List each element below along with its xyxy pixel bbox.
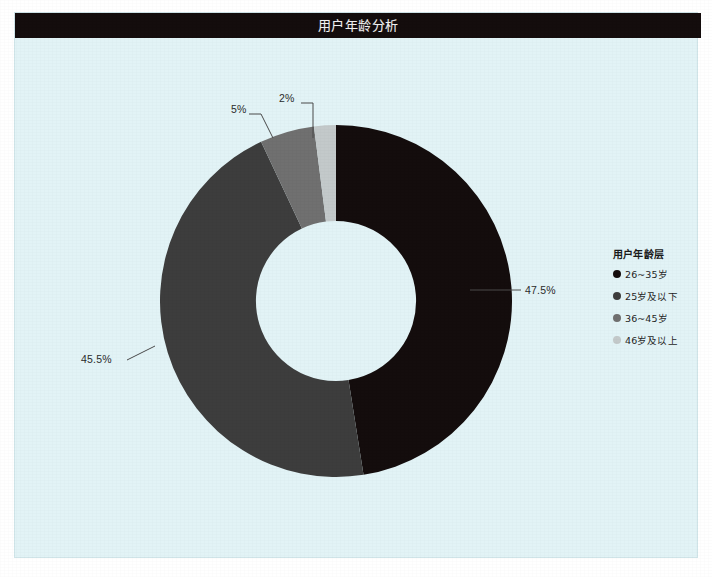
legend: 用户年龄层 26~35岁 25岁及以下 36~45岁 46岁及以上 (613, 246, 709, 356)
legend-swatch-icon (613, 336, 621, 344)
legend-swatch-icon (613, 270, 621, 278)
donut-chart (160, 125, 512, 477)
legend-item-25-under[interactable]: 25岁及以下 (613, 290, 709, 302)
legend-item-label: 25岁及以下 (625, 289, 678, 303)
data-label-45-5-percent: 45.5% (81, 353, 112, 365)
plot-area: 5% 2% 47.5% 45.5% 用户年龄层 26~35岁 25岁及以下 36… (15, 38, 699, 557)
slice-26-35 (336, 125, 512, 475)
legend-item-36-45[interactable]: 36~45岁 (613, 312, 709, 324)
legend-item-26-35[interactable]: 26~35岁 (613, 268, 709, 280)
data-label-47-5-percent: 47.5% (525, 284, 556, 296)
legend-item-46-over[interactable]: 46岁及以上 (613, 334, 709, 346)
data-label-5-percent: 5% (231, 103, 247, 115)
data-label-2-percent: 2% (279, 92, 295, 104)
page-title: 用户年龄分析 (318, 19, 399, 32)
legend-swatch-icon (613, 314, 621, 322)
legend-swatch-icon (613, 292, 621, 300)
chart-screenshot: 用户年龄分析 5% 2% 47.5% 45.5% 用户年龄层 (0, 0, 712, 577)
legend-item-label: 26~35岁 (625, 267, 668, 281)
chart-title-banner: 用户年龄分析 (15, 13, 701, 38)
donut-svg (160, 125, 512, 477)
legend-title: 用户年龄层 (613, 246, 709, 261)
legend-item-label: 46岁及以上 (625, 333, 678, 347)
legend-item-label: 36~45岁 (625, 311, 668, 325)
donut-slices (160, 125, 512, 477)
leader-line-45 (127, 346, 155, 360)
